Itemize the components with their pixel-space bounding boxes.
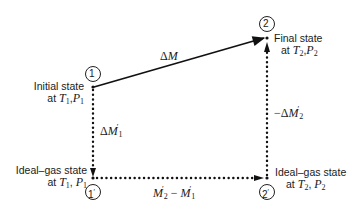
- edge-1-to-2: [94, 38, 264, 87]
- edge-1-to-1prime-label: ΔM′1: [100, 122, 122, 141]
- node-2-number: 2: [263, 18, 269, 30]
- arrowhead-up-icon: [264, 42, 270, 52]
- arrowhead-down-icon: [90, 168, 96, 177]
- node-1prime-number: 1′: [88, 186, 95, 201]
- node-2-description: Final state at T2,P2: [274, 32, 322, 60]
- node-2prime-description: Ideal–gas state at T2, P2: [275, 166, 346, 194]
- node-1prime-description: Ideal–gas state at T1, P1: [16, 164, 87, 192]
- node-1-description: Initial state at T1,P1: [34, 80, 84, 108]
- node-1-number: 1: [89, 68, 95, 80]
- edge-1-to-2-label: ΔM: [160, 50, 178, 62]
- edge-2prime-to-2-label: −ΔM′2: [274, 104, 303, 123]
- node-2prime-number: 2′: [262, 186, 269, 201]
- arrowhead-right-icon: [254, 175, 264, 181]
- edge-1prime-to-2prime-label: M′2 − M′1: [153, 184, 195, 203]
